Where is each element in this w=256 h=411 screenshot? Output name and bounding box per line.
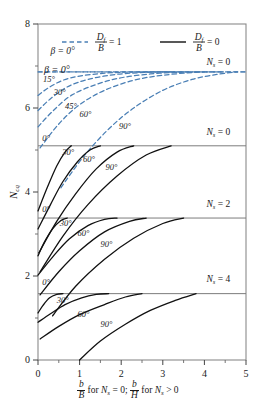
annotation-solid-ns2-0: 0° <box>42 204 50 214</box>
x-axis-fraction-2: bH <box>130 380 139 401</box>
x-axis-label: bB for Ns = 0; bH for Ns > 0 <box>0 380 256 401</box>
x-axis-eq1: = 0; <box>112 385 127 395</box>
legend-solid-numerator: Df <box>194 32 205 43</box>
annotation-solid-ns4-0: 0° <box>42 277 50 287</box>
x-tick-label: 1 <box>77 368 82 379</box>
band-label-ns0: Ns = 0 <box>205 127 230 138</box>
x-axis-mid1: for <box>88 385 99 395</box>
x-axis-frac2-den: H <box>130 391 139 401</box>
x-axis-mid2: for <box>141 385 152 395</box>
y-axis-label-sub: cq <box>13 185 21 192</box>
beta-legend-label: β = 0° <box>43 64 70 75</box>
chart-canvas: 02468012345β = 0°15°30°45°60°90°0°30°60°… <box>0 0 256 411</box>
annotation-solid-ns2-90: 90° <box>100 239 113 249</box>
annotation-beta-0-top: β = 0° <box>49 46 75 56</box>
annotation-solid-ns4-90: 90° <box>100 319 113 329</box>
series-curve <box>40 294 142 339</box>
annotation-solid-ns0-90: 90° <box>105 162 118 172</box>
band-label-ns4: Ns = 4 <box>205 274 230 285</box>
x-tick-label: 3 <box>160 368 165 379</box>
x-tick-label: 5 <box>244 368 249 379</box>
annotation-solid-ns0-0: 0° <box>42 133 50 143</box>
annotation-solid-ns4-30: 30° <box>56 295 70 305</box>
figure-container: 02468012345β = 0°15°30°45°60°90°0°30°60°… <box>0 0 256 411</box>
series-curve <box>38 72 204 127</box>
y-axis-label: Ncq <box>7 172 21 212</box>
y-tick-label: 8 <box>25 18 30 29</box>
y-tick-label: 0 <box>25 354 30 365</box>
annotation-solid-ns2-30: 30° <box>59 218 73 228</box>
legend-solid-value: = 0 <box>207 37 220 47</box>
x-axis-eq2: > 0 <box>166 385 178 395</box>
annotation-beta-15: 15° <box>43 74 56 84</box>
y-tick-label: 6 <box>25 102 30 113</box>
annotation-solid-ns0-30: 30° <box>61 147 75 157</box>
annotation-beta-30: 30° <box>53 87 67 97</box>
band-label-ns0-top: Ns = 0 <box>205 57 230 68</box>
annotation-beta-45: 45° <box>65 101 78 111</box>
y-tick-label: 4 <box>25 186 30 197</box>
x-tick-label: 2 <box>119 368 124 379</box>
series-curve <box>80 294 196 360</box>
annotation-solid-ns4-60: 60° <box>78 309 91 319</box>
annotation-beta-60: 60° <box>80 109 93 119</box>
legend-solid-denominator: B <box>196 43 202 53</box>
x-axis-fraction-1: bB <box>77 380 85 401</box>
annotation-solid-ns0-60: 60° <box>83 154 96 164</box>
y-tick-label: 2 <box>25 270 30 281</box>
x-tick-label: 0 <box>36 368 41 379</box>
legend-dashed-value: = 1 <box>109 37 122 47</box>
legend-dashed-denominator: B <box>98 43 104 53</box>
legend-dashed-numerator: Df <box>96 32 107 43</box>
x-axis-frac1-den: B <box>77 391 85 401</box>
series-curve <box>40 218 146 295</box>
y-axis-label-text: N <box>7 192 19 199</box>
annotation-beta-90: 90° <box>119 121 131 131</box>
x-axis-var1-sub: s <box>107 389 110 397</box>
annotation-solid-ns2-60: 60° <box>78 228 91 238</box>
x-tick-label: 4 <box>202 368 207 379</box>
band-label-ns2: Ns = 2 <box>205 199 230 210</box>
x-axis-var2-sub: s <box>161 389 164 397</box>
